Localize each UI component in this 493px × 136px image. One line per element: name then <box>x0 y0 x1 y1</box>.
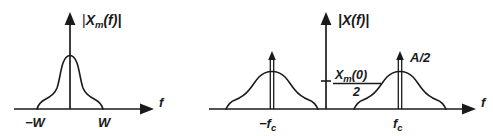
fraction-denominator: 2 <box>352 85 360 99</box>
panel-message-spectrum: |Xm(f)| f −W W <box>14 12 165 130</box>
impulse-plus-fc <box>396 51 404 109</box>
right-y-axis-label: |X(f)| <box>338 12 369 28</box>
impulse-minus-fc <box>268 51 276 109</box>
lower-sideband-curve <box>226 72 318 110</box>
left-tick-label-minus-w: −W <box>25 115 47 130</box>
spectrum-figure: |Xm(f)| f −W W <box>0 0 493 136</box>
left-x-axis-label: f <box>159 95 165 110</box>
impulse-amplitude-label: A/2 <box>409 50 431 65</box>
right-x-axis-arrowhead <box>462 104 476 115</box>
right-y-axis-arrowhead <box>321 12 332 25</box>
upper-sideband-curve <box>354 72 446 110</box>
left-y-axis-label: |Xm(f)| <box>82 12 121 30</box>
figure-canvas: |Xm(f)| f −W W <box>0 0 493 136</box>
impulse-minus-fc-arrowhead <box>268 51 276 60</box>
right-x-axis-label: f <box>481 95 487 110</box>
right-tick-label-fc: fc <box>393 116 403 133</box>
left-x-axis-arrowhead <box>140 104 154 115</box>
left-y-axis-arrowhead <box>65 12 76 25</box>
fraction-numerator: Xm(0) <box>334 68 367 84</box>
panel-modulated-spectrum: |X(f)| f Xm(0) 2 A/2 −fc fc <box>209 12 487 133</box>
impulse-plus-fc-arrowhead <box>396 51 404 60</box>
right-tick-label-minus-fc: −fc <box>259 116 277 133</box>
left-tick-label-w: W <box>98 115 112 130</box>
